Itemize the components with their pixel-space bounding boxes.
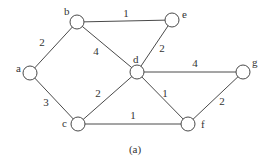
node-a bbox=[23, 66, 37, 80]
node-label-d: d bbox=[133, 53, 139, 65]
node-label-a: a bbox=[16, 62, 21, 74]
node-g bbox=[236, 65, 250, 79]
node-label-c: c bbox=[62, 117, 67, 129]
edge-weight-a-c: 3 bbox=[43, 96, 49, 108]
node-c bbox=[71, 117, 85, 131]
weighted-graph: 2314242112 abcdefg (a) bbox=[0, 0, 267, 159]
edge-weight-labels: 2314242112 bbox=[39, 7, 225, 121]
edge-weight-d-g: 4 bbox=[192, 57, 198, 69]
edge-d-c bbox=[78, 72, 137, 124]
edge-a-c bbox=[30, 73, 78, 124]
node-f bbox=[181, 117, 195, 131]
edge-weight-d-f: 1 bbox=[162, 87, 168, 99]
figure-caption: (a) bbox=[129, 143, 142, 156]
edge-a-b bbox=[30, 22, 77, 73]
edge-e-d bbox=[137, 20, 172, 72]
node-label-f: f bbox=[201, 118, 205, 130]
edge-weight-f-g: 2 bbox=[219, 95, 225, 107]
node-b bbox=[70, 15, 84, 29]
edge-weight-a-b: 2 bbox=[39, 36, 45, 48]
node-label-e: e bbox=[182, 8, 187, 20]
node-e bbox=[165, 13, 179, 27]
edge-b-e bbox=[77, 20, 172, 22]
edge-b-d bbox=[77, 22, 137, 72]
edge-weight-b-e: 1 bbox=[123, 7, 129, 19]
node-label-b: b bbox=[64, 5, 70, 17]
node-d bbox=[130, 65, 144, 79]
node-label-g: g bbox=[252, 56, 258, 68]
edge-weight-c-f: 1 bbox=[130, 109, 136, 121]
edge-weight-d-c: 2 bbox=[95, 87, 101, 99]
edge-weight-b-d: 4 bbox=[93, 45, 99, 57]
edge-f-g bbox=[188, 72, 243, 124]
edge-weight-e-d: 2 bbox=[159, 42, 165, 54]
